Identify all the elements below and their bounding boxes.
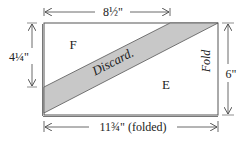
fold-label: Fold <box>199 49 213 74</box>
dimension-top: 8½" <box>44 5 170 19</box>
dimension-right-label: 6" <box>226 67 237 81</box>
fold-cut-diagram: F E Discard. Fold 8½" 4¼" 6" 11¾" (folde… <box>0 0 249 142</box>
region-label-e: E <box>162 77 170 92</box>
dimension-left: 4¼" <box>9 23 37 87</box>
dimension-bottom-label: 11¾" (folded) <box>99 120 166 134</box>
dimension-bottom: 11¾" (folded) <box>44 120 218 134</box>
dimension-left-label: 4¼" <box>9 50 29 64</box>
dimension-top-label: 8½" <box>103 5 123 19</box>
dimension-right: 6" <box>222 23 237 115</box>
region-label-f: F <box>69 37 76 52</box>
